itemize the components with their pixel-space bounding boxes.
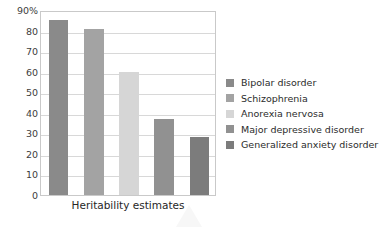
y-axis-tick: 0 xyxy=(4,191,38,201)
bar xyxy=(190,137,210,195)
y-axis-tick: 90% xyxy=(4,6,38,16)
bar xyxy=(49,20,69,195)
y-axis-tick: 30 xyxy=(4,130,38,140)
legend: Bipolar disorderSchizophreniaAnorexia ne… xyxy=(226,75,380,153)
legend-item[interactable]: Generalized anxiety disorder xyxy=(226,137,380,153)
bar-chart-figure: 90%80706050403020100 Heritability estima… xyxy=(0,0,382,231)
y-axis-tick: 40 xyxy=(4,109,38,119)
y-axis-tick: 80 xyxy=(4,27,38,37)
legend-swatch-icon xyxy=(226,110,234,118)
y-axis-tick: 10 xyxy=(4,171,38,181)
legend-item[interactable]: Bipolar disorder xyxy=(226,75,380,91)
plot-area xyxy=(40,11,216,196)
bar xyxy=(154,119,174,195)
legend-item[interactable]: Schizophrenia xyxy=(226,91,380,107)
y-axis-tick: 70 xyxy=(4,47,38,57)
bar xyxy=(84,29,104,196)
legend-swatch-icon xyxy=(226,79,234,87)
legend-swatch-icon xyxy=(226,94,234,102)
y-axis-tick: 20 xyxy=(4,150,38,160)
legend-label: Anorexia nervosa xyxy=(241,109,324,119)
legend-label: Bipolar disorder xyxy=(241,78,316,88)
legend-swatch-icon xyxy=(226,141,234,149)
legend-swatch-icon xyxy=(226,125,234,133)
legend-item[interactable]: Major depressive disorder xyxy=(226,122,380,138)
bar-series xyxy=(41,12,215,195)
legend-item[interactable]: Anorexia nervosa xyxy=(226,106,380,122)
y-axis-tick: 50 xyxy=(4,88,38,98)
legend-label: Schizophrenia xyxy=(241,94,308,104)
y-axis-tick: 60 xyxy=(4,68,38,78)
legend-label: Major depressive disorder xyxy=(241,125,364,135)
legend-label: Generalized anxiety disorder xyxy=(241,140,378,150)
bar xyxy=(119,72,139,195)
